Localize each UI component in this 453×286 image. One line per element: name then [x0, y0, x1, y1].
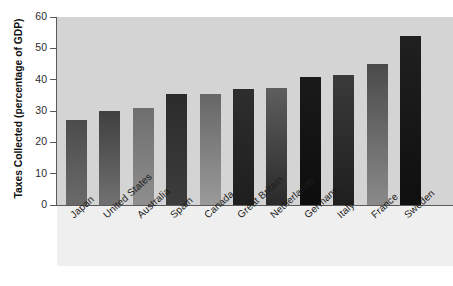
x-label-area-background: [57, 205, 453, 266]
bar: [367, 64, 388, 205]
bar: [200, 94, 221, 205]
bar: [233, 89, 254, 205]
bar: [66, 120, 87, 205]
bar-series: [0, 0, 453, 206]
bar: [333, 75, 354, 205]
bar: [99, 111, 120, 205]
bar: [400, 36, 421, 205]
bar-chart-figure: Taxes Collected (percentage of GDP) 0102…: [0, 0, 453, 286]
bar: [166, 94, 187, 205]
